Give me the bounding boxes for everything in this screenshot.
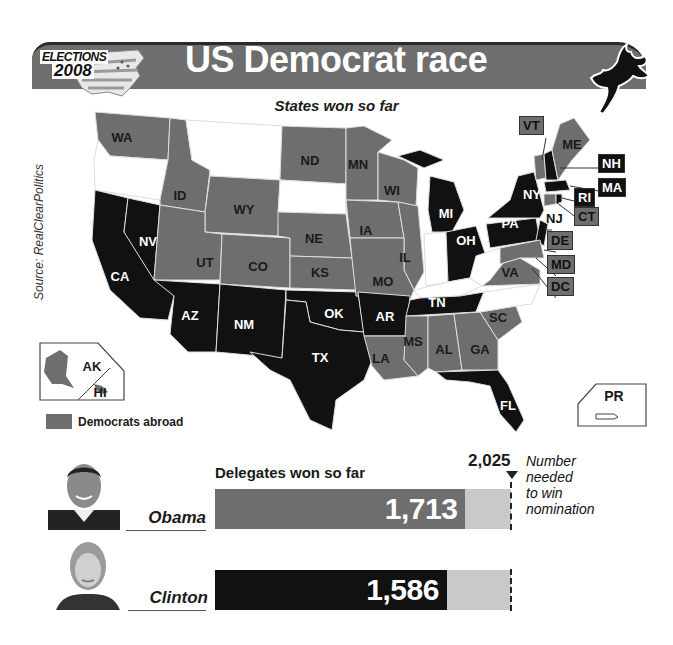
legend: Democrats abroad: [46, 414, 183, 429]
clinton-delegates-value: 1,586: [366, 573, 439, 607]
label-sc: SC: [489, 310, 507, 325]
candidate-name-obama: Obama: [126, 508, 206, 528]
callout-nh: NH: [598, 154, 625, 173]
label-pr: PR: [604, 388, 623, 404]
label-mo: MO: [373, 274, 394, 289]
goal-line-obama: [510, 482, 512, 530]
label-va: VA: [501, 265, 518, 280]
callout-nj: NJ: [543, 210, 566, 227]
label-me: ME: [562, 137, 582, 152]
label-nd: ND: [301, 153, 320, 168]
label-wa: WA: [112, 130, 133, 145]
label-ms: MS: [403, 334, 423, 349]
state-ia: [346, 200, 404, 238]
callout-vt: VT: [519, 116, 544, 135]
clinton-underline: [128, 610, 206, 611]
state-ma: [544, 180, 570, 192]
obama-delegates-value: 1,713: [385, 492, 458, 526]
label-la: LA: [372, 351, 389, 366]
label-ok: OK: [324, 306, 344, 321]
label-pa: PA: [501, 216, 518, 231]
goal-line-clinton: [510, 569, 512, 611]
needed-note: Number needed to win nomination: [526, 453, 595, 517]
label-id: ID: [174, 188, 187, 203]
label-hi: HI: [94, 385, 107, 400]
state-mi: [428, 176, 464, 232]
label-az: AZ: [181, 308, 198, 323]
clinton-bar-track: 1,586: [215, 570, 511, 610]
label-ga: GA: [470, 342, 490, 357]
legend-swatch-democrats-abroad: [46, 414, 72, 429]
label-ny: NY: [523, 187, 541, 202]
label-ar: AR: [376, 309, 395, 324]
needed-number: 2,025: [468, 451, 511, 471]
label-ia: IA: [360, 223, 373, 238]
callout-ri: RI: [574, 188, 595, 207]
label-ks: KS: [311, 265, 329, 280]
label-tx: TX: [312, 350, 329, 365]
obama-underline: [126, 530, 206, 531]
label-nm: NM: [234, 317, 254, 332]
label-fl: FL: [500, 398, 516, 413]
label-mi: MI: [439, 206, 453, 221]
callout-de: DE: [547, 231, 573, 250]
state-in: [424, 232, 448, 286]
label-mn: MN: [348, 157, 368, 172]
obama-bar-track: 1,713: [215, 489, 511, 529]
label-oh: OH: [456, 233, 476, 248]
delegates-title: Delegates won so far: [215, 464, 365, 481]
state-sd: [278, 180, 346, 214]
label-ut: UT: [196, 255, 213, 270]
label-ca: CA: [111, 269, 130, 284]
legend-label: Democrats abroad: [78, 415, 183, 429]
clinton-photo: [52, 536, 124, 610]
clinton-bar: 1,586: [215, 570, 447, 610]
state-ct: [544, 194, 556, 206]
label-nv: NV: [139, 234, 157, 249]
label-ak: AK: [83, 359, 102, 374]
callout-md: MD: [547, 255, 575, 274]
label-il: IL: [399, 250, 411, 265]
state-mo: [350, 238, 414, 300]
label-co: CO: [248, 259, 268, 274]
state-nc: [476, 284, 540, 312]
obama-bar: 1,713: [215, 489, 465, 529]
label-tn: TN: [428, 295, 445, 310]
label-wy: WY: [234, 202, 255, 217]
obama-photo: [48, 456, 120, 530]
callout-ma: MA: [598, 178, 626, 197]
target-arrow-icon: [506, 471, 518, 479]
candidate-name-clinton: Clinton: [128, 588, 208, 608]
label-ne: NE: [305, 231, 323, 246]
callout-ct: CT: [574, 207, 599, 226]
label-wi: WI: [384, 183, 400, 198]
label-al: AL: [435, 342, 452, 357]
callout-dc: DC: [547, 277, 574, 296]
